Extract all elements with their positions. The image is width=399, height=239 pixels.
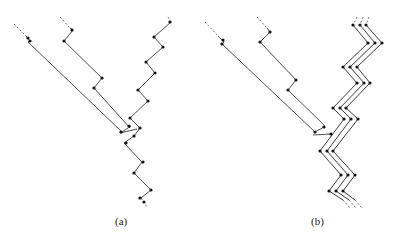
chain-edge	[120, 129, 137, 133]
chain-node	[153, 71, 156, 74]
chain-node	[318, 149, 321, 152]
chain-node	[331, 106, 334, 109]
chain-node	[338, 106, 341, 109]
dashed-continuation	[14, 24, 26, 36]
chain-node	[149, 188, 152, 191]
chain-edge	[64, 28, 130, 128]
diagram-canvas	[0, 0, 399, 239]
chain-node	[70, 28, 73, 31]
dashed-continuation	[60, 17, 70, 28]
chain-node	[128, 116, 131, 119]
chain-edge	[218, 36, 315, 132]
chain-node	[294, 78, 297, 81]
chain-node	[329, 132, 332, 135]
chain-node	[152, 35, 155, 38]
dashed-continuation	[349, 200, 356, 208]
panel-b-caption: (b)	[311, 215, 324, 227]
chain-edge	[124, 22, 171, 198]
chain-node	[322, 125, 325, 128]
chain-node	[127, 124, 130, 127]
dashed-continuation	[205, 22, 218, 36]
chain-node	[132, 171, 135, 174]
chain-node	[92, 86, 95, 89]
chain-node	[342, 117, 345, 120]
chain-node	[364, 23, 367, 26]
chain-node	[341, 65, 344, 68]
panel-a-caption: (a)	[115, 215, 127, 227]
chain-node	[353, 173, 356, 176]
dashed-continuation	[257, 17, 267, 28]
chain-node	[141, 160, 144, 163]
chain-node	[268, 30, 271, 33]
chain-node	[286, 88, 289, 91]
chain-node	[136, 88, 139, 91]
chain-node	[366, 41, 369, 44]
chain-node	[373, 41, 376, 44]
chain-node	[341, 189, 344, 192]
panel-b-graph	[205, 17, 384, 208]
chain-node	[146, 99, 149, 102]
chain-node	[358, 23, 361, 26]
chain-node	[380, 41, 383, 44]
chain-node	[144, 60, 147, 63]
chain-node	[346, 173, 349, 176]
chain-node	[325, 149, 328, 152]
chain-node	[349, 117, 352, 120]
chain-node	[161, 45, 164, 48]
chain-node	[168, 20, 171, 23]
chain-node	[355, 65, 358, 68]
chain-node	[351, 23, 354, 26]
chain-node	[138, 126, 141, 129]
chain-node	[119, 130, 122, 133]
chain-node	[339, 173, 342, 176]
chain-node	[368, 81, 371, 84]
chain-node	[142, 200, 145, 203]
chain-node	[28, 39, 31, 42]
chain-node	[355, 81, 358, 84]
chain-node	[220, 42, 223, 45]
chain-node	[221, 38, 224, 41]
chain-node	[62, 39, 65, 42]
chain-node	[327, 189, 330, 192]
chain-node	[331, 149, 334, 152]
chain-node	[138, 196, 141, 199]
chain-node	[334, 189, 337, 192]
chain-node	[124, 141, 127, 144]
chain-node	[344, 106, 347, 109]
dashed-continuation	[355, 200, 362, 208]
chain-node	[26, 36, 29, 39]
chain-node	[100, 76, 103, 79]
chain-node	[132, 134, 135, 137]
chain-node	[313, 130, 316, 133]
chain-node	[258, 40, 261, 43]
chain-edge	[313, 134, 331, 135]
chain-node	[348, 65, 351, 68]
chain-node	[356, 117, 359, 120]
chain-node	[362, 81, 365, 84]
dashed-continuation	[343, 200, 350, 208]
panel-a-graph	[14, 17, 172, 207]
